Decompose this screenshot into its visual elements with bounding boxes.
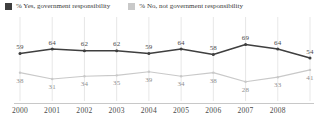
data-point[interactable] <box>115 49 118 52</box>
data-label: 38 <box>210 77 218 85</box>
data-label: 54 <box>306 48 314 56</box>
x-axis-tick-label: 2002 <box>76 106 92 115</box>
axis-baseline <box>14 103 314 104</box>
data-point[interactable] <box>212 71 214 73</box>
data-label: 62 <box>81 40 89 48</box>
data-point[interactable] <box>51 78 53 80</box>
x-axis-tick-label: 2007 <box>237 106 253 115</box>
legend-label-no: % No, not government responsibility <box>139 2 243 10</box>
x-axis-tick-label: 2000 <box>12 106 28 115</box>
data-label: 35 <box>113 79 121 87</box>
data-label: 64 <box>177 39 185 47</box>
data-label: 69 <box>242 34 250 42</box>
x-axis-tick-label: 2001 <box>44 106 60 115</box>
data-point[interactable] <box>115 74 117 76</box>
data-point[interactable] <box>277 76 279 78</box>
data-point[interactable] <box>309 57 312 60</box>
data-point[interactable] <box>51 48 54 51</box>
data-label: 59 <box>145 43 153 51</box>
legend-swatch-no-icon <box>128 3 135 10</box>
x-axis-tick-label: 2005 <box>173 106 189 115</box>
data-point[interactable] <box>244 81 246 83</box>
data-point[interactable] <box>83 75 85 77</box>
data-point[interactable] <box>276 48 279 51</box>
chart-container: % Yes, government responsibility % No, n… <box>0 0 324 126</box>
data-label: 34 <box>177 80 185 88</box>
data-label: 39 <box>145 76 153 84</box>
data-label: 58 <box>210 44 218 52</box>
data-label: 28 <box>242 86 250 94</box>
data-point[interactable] <box>212 53 215 56</box>
plot-area: 5964626259645869645438313435393438283341 <box>0 17 324 101</box>
legend-swatch-yes-icon <box>5 3 12 10</box>
data-point[interactable] <box>309 69 311 71</box>
data-label: 31 <box>49 83 57 91</box>
x-axis-tick-label: 2006 <box>205 106 221 115</box>
chart-legend: % Yes, government responsibility % No, n… <box>5 2 243 10</box>
data-point[interactable] <box>148 71 150 73</box>
plot-svg: 5964626259645869645438313435393438283341 <box>0 17 324 101</box>
data-label: 64 <box>274 39 282 47</box>
legend-label-yes: % Yes, government responsibility <box>16 2 110 10</box>
x-axis-tick-label: 2008 <box>270 106 286 115</box>
x-axis: 200020012002200320042005200620072008 <box>0 103 324 123</box>
x-axis-tick-label: 2004 <box>141 106 157 115</box>
data-label: 38 <box>16 77 24 85</box>
series-line <box>20 70 310 82</box>
x-axis-tick-label: 2003 <box>109 106 125 115</box>
data-label: 64 <box>49 39 57 47</box>
data-label: 34 <box>81 80 89 88</box>
data-point[interactable] <box>147 52 150 55</box>
data-point[interactable] <box>244 43 247 46</box>
data-label: 59 <box>16 43 24 51</box>
series-line <box>20 44 310 58</box>
data-point[interactable] <box>19 71 21 73</box>
data-label: 41 <box>306 74 314 82</box>
data-label: 62 <box>113 40 121 48</box>
data-point[interactable] <box>180 48 183 51</box>
legend-item-yes[interactable]: % Yes, government responsibility <box>5 2 110 10</box>
data-label: 33 <box>274 81 282 89</box>
data-point[interactable] <box>83 49 86 52</box>
legend-item-no[interactable]: % No, not government responsibility <box>128 2 243 10</box>
data-point[interactable] <box>19 52 22 55</box>
data-point[interactable] <box>180 75 182 77</box>
